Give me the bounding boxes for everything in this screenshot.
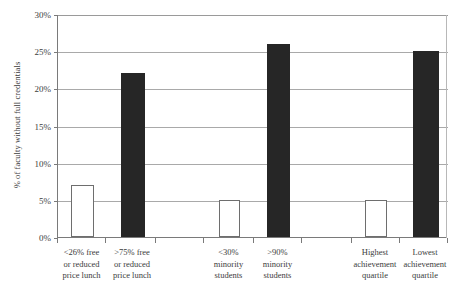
x-tick-2: [155, 238, 156, 243]
x-tick-5: [301, 238, 302, 243]
bars-group: [58, 14, 448, 237]
x-tick-8: [447, 238, 448, 243]
x-axis-label-line: Lowest: [385, 247, 463, 259]
x-tick-7: [399, 238, 400, 243]
x-axis-label-4: >90%minoritystudents: [238, 247, 318, 282]
y-tick-label: 0%: [39, 233, 51, 243]
y-axis-title: % of faculty without full credentials: [12, 15, 22, 235]
bar-4: [267, 44, 290, 237]
bar-1: [71, 185, 94, 237]
x-axis-label-line: >90%: [238, 247, 318, 259]
bar-6: [413, 51, 439, 237]
plot-area: 0%5%10%15%20%25%30%: [57, 15, 447, 238]
x-axis-label-6: Lowestachievementquartile: [385, 247, 463, 282]
y-tick-label: 15%: [35, 122, 52, 132]
bar-3: [219, 200, 240, 237]
x-axis-label-line: or reduced: [92, 259, 172, 271]
bar-5: [365, 200, 387, 237]
x-axis-label-line: minority: [238, 259, 318, 271]
bar-2: [121, 73, 145, 237]
x-axis-label-line: achievement: [385, 259, 463, 271]
y-tick-label: 20%: [35, 84, 52, 94]
bar-chart: % of faculty without full credentials 0%…: [0, 0, 463, 305]
x-tick-3: [203, 238, 204, 243]
x-axis-label-line: students: [238, 270, 318, 282]
x-axis-label-line: price lunch: [92, 270, 172, 282]
y-tick-label: 5%: [39, 196, 51, 206]
x-axis-label-2: >75% freeor reducedprice lunch: [92, 247, 172, 282]
x-tick-1: [105, 238, 106, 243]
x-axis-label-line: >75% free: [92, 247, 172, 259]
y-tick-label: 25%: [35, 47, 52, 57]
x-tick-0: [57, 238, 58, 243]
plot-right-border: [446, 15, 447, 238]
x-tick-4: [253, 238, 254, 243]
y-tick-label: 30%: [35, 10, 52, 20]
x-axis-label-line: quartile: [385, 270, 463, 282]
y-tick-label: 10%: [35, 159, 52, 169]
x-tick-6: [351, 238, 352, 243]
